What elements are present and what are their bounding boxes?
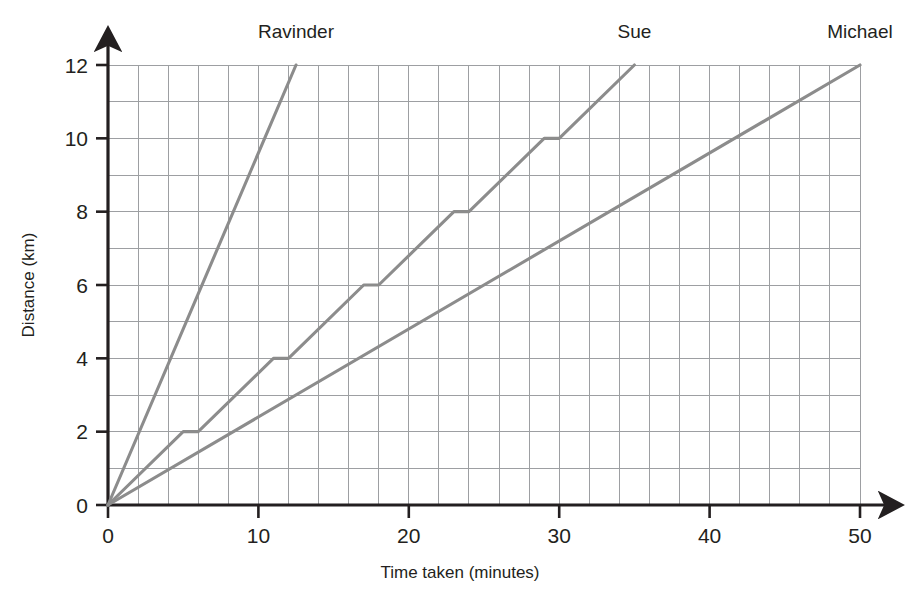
- x-tick-label: 30: [548, 524, 571, 547]
- y-tick-label: 0: [76, 494, 88, 517]
- x-axis-title: Time taken (minutes): [380, 563, 539, 582]
- x-tick-label: 10: [247, 524, 270, 547]
- series-label-michael: Michael: [827, 21, 892, 42]
- y-tick-label: 8: [76, 200, 88, 223]
- y-tick-label: 12: [65, 54, 88, 77]
- series-label-ravinder: Ravinder: [258, 21, 335, 42]
- distance-time-chart: 02468101201020304050 RavinderSueMichael …: [0, 0, 919, 601]
- y-axis-title: Distance (km): [19, 233, 38, 338]
- x-tick-label: 0: [102, 524, 114, 547]
- y-tick-label: 10: [65, 127, 88, 150]
- chart-canvas: 02468101201020304050 RavinderSueMichael …: [0, 0, 919, 601]
- y-tick-label: 2: [76, 420, 88, 443]
- series-label-sue: Sue: [617, 21, 651, 42]
- series-labels-layer: RavinderSueMichael: [258, 21, 893, 42]
- x-tick-label: 20: [397, 524, 420, 547]
- y-tick-label: 4: [76, 347, 88, 370]
- x-tick-label: 40: [698, 524, 721, 547]
- x-tick-label: 50: [848, 524, 871, 547]
- y-tick-label: 6: [76, 274, 88, 297]
